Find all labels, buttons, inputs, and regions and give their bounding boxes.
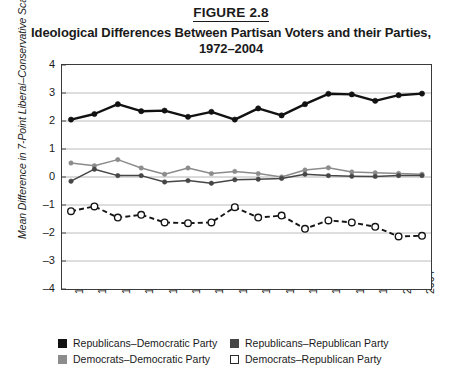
data-point (279, 113, 284, 118)
legend-item[interactable]: Democrats–Democratic Party (58, 353, 210, 365)
data-point (349, 92, 354, 97)
data-point (350, 174, 354, 178)
data-point (162, 108, 167, 113)
legend-swatch-icon (58, 355, 67, 364)
legend-swatch-icon (230, 339, 239, 348)
data-point (303, 172, 307, 176)
y-tick-label: 3 (29, 87, 55, 98)
data-point (138, 212, 145, 219)
data-point (395, 233, 402, 240)
data-point (115, 214, 122, 221)
data-point (256, 171, 260, 175)
data-point (139, 109, 144, 114)
legend-label: Republicans–Democratic Party (73, 337, 217, 349)
data-point (373, 98, 378, 103)
data-point (186, 166, 190, 170)
data-point (256, 177, 260, 181)
data-point (92, 111, 97, 116)
legend-item[interactable]: Democrats–Republican Party (230, 353, 382, 365)
data-point (115, 102, 120, 107)
legend-label: Democrats–Republican Party (245, 353, 382, 365)
data-point (162, 172, 166, 176)
data-point (161, 219, 168, 226)
series-line (71, 206, 422, 236)
data-point (185, 114, 190, 119)
y-tick-label: –1 (29, 199, 55, 210)
chart-legend: Republicans–Democratic PartyRepublicans–… (58, 337, 418, 371)
data-point (396, 93, 401, 98)
figure-title-line2: 1972–2004 (12, 41, 450, 57)
y-tick-label: 1 (29, 143, 55, 154)
legend-swatch-icon (58, 339, 67, 348)
data-point (209, 171, 213, 175)
series-line (71, 160, 422, 177)
data-point (185, 220, 192, 227)
data-point (326, 166, 330, 170)
data-point (302, 102, 307, 107)
data-point (186, 178, 190, 182)
figure-title-line1: Ideological Differences Between Partisan… (31, 25, 431, 40)
y-tick-label: –3 (29, 255, 55, 266)
figure-title: Ideological Differences Between Partisan… (12, 25, 450, 57)
data-point (419, 233, 426, 240)
plot-area (61, 64, 432, 290)
data-point (325, 217, 332, 224)
legend-item[interactable]: Republicans–Republican Party (230, 337, 389, 349)
legend-swatch-icon (230, 355, 239, 364)
data-point (69, 161, 73, 165)
data-point (279, 176, 283, 180)
series-line (71, 169, 422, 183)
data-point (233, 169, 237, 173)
y-tick-label: 4 (29, 59, 55, 70)
data-point (233, 178, 237, 182)
data-point (209, 109, 214, 114)
data-point (373, 174, 377, 178)
plot-svg (62, 65, 431, 289)
data-point (162, 180, 166, 184)
data-point (302, 226, 309, 233)
legend-item[interactable]: Republicans–Democratic Party (58, 337, 217, 349)
legend-label: Democrats–Democratic Party (73, 353, 210, 365)
data-point (116, 157, 120, 161)
data-point (69, 179, 73, 183)
data-point (208, 219, 215, 226)
series-line (71, 94, 422, 120)
legend-label: Republicans–Republican Party (245, 337, 389, 349)
figure-container: FIGURE 2.8 Ideological Differences Betwe… (0, 0, 462, 389)
data-point (68, 117, 73, 122)
data-point (278, 212, 285, 219)
data-point (372, 224, 379, 231)
y-tick-label: –4 (29, 283, 55, 294)
data-point (91, 203, 98, 210)
y-axis-label: Mean Difference in 7-Point Liberal–Conse… (16, 0, 28, 239)
y-tick-label: 0 (29, 171, 55, 182)
data-point (350, 170, 354, 174)
data-point (349, 219, 356, 226)
figure-number-text: FIGURE 2.8 (193, 5, 269, 22)
data-point (256, 106, 261, 111)
y-tick-label: 2 (29, 115, 55, 126)
data-point (92, 167, 96, 171)
data-point (232, 117, 237, 122)
y-tick-label: –2 (29, 227, 55, 238)
data-point (419, 91, 424, 96)
data-point (396, 173, 400, 177)
data-point (209, 181, 213, 185)
data-point (116, 173, 120, 177)
data-point (68, 208, 75, 215)
data-point (420, 173, 424, 177)
data-point (139, 166, 143, 170)
data-point (326, 173, 330, 177)
data-point (232, 204, 239, 211)
data-point (139, 173, 143, 177)
data-point (326, 91, 331, 96)
data-point (255, 214, 262, 221)
figure-number: FIGURE 2.8 (0, 5, 462, 20)
data-point (303, 168, 307, 172)
